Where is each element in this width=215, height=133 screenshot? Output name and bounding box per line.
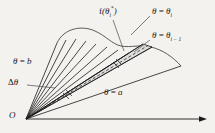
label-theta-i: θ = θi [152, 7, 172, 18]
label-theta-equals-a: θ = a [104, 88, 123, 97]
radial-ray-fan [26, 39, 181, 119]
polar-area-diagram [0, 0, 215, 133]
label-theta-equals-b: θ = b [13, 57, 32, 66]
label-origin: O [9, 111, 16, 120]
label-sample-value: f(θi*) [99, 6, 117, 18]
label-theta-i-minus-1: θ = θi − 1 [152, 31, 181, 42]
polar-axis [26, 116, 207, 122]
label-delta-theta: Δθ [8, 78, 18, 87]
